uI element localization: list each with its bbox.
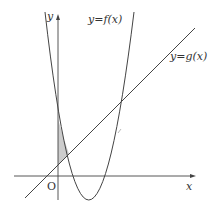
line-g-label: y=g(x) bbox=[169, 50, 207, 63]
y-axis-label: y bbox=[46, 10, 54, 23]
function-graph-diagram: y x O y=f(x) y=g(x) bbox=[0, 0, 220, 209]
y-axis-arrow-icon bbox=[56, 14, 60, 20]
curve-f-label: y=f(x) bbox=[87, 13, 122, 26]
x-axis-label: x bbox=[186, 180, 193, 193]
tick-mark bbox=[118, 129, 121, 133]
shaded-area-region bbox=[58, 119, 69, 165]
x-axis-arrow-icon bbox=[190, 174, 196, 178]
origin-label: O bbox=[47, 180, 56, 193]
